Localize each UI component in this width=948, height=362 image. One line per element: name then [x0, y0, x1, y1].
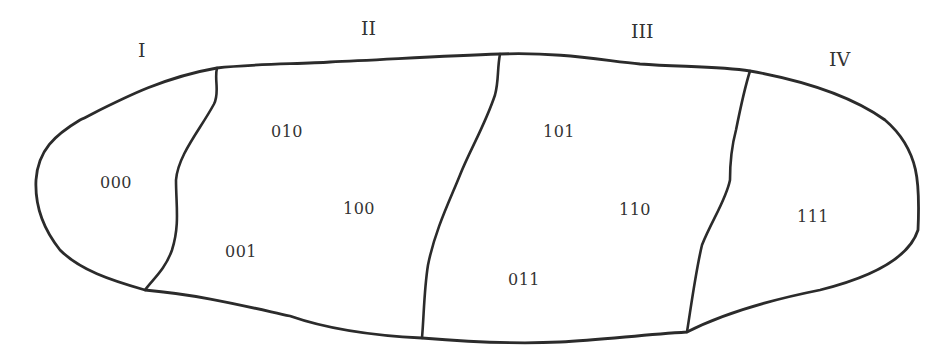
code-111: 111 [797, 207, 829, 226]
code-110: 110 [619, 200, 651, 219]
section-label-iv: IV [829, 48, 851, 70]
divider-3 [687, 71, 750, 332]
code-100: 100 [343, 199, 375, 218]
section-label-iii: III [631, 20, 654, 42]
partition-diagram: I II III IV 000 010 100 001 101 110 011 … [0, 0, 948, 362]
code-101: 101 [543, 122, 575, 141]
code-010: 010 [271, 122, 303, 141]
divider-2 [422, 54, 500, 338]
code-011: 011 [508, 270, 540, 289]
outer-boundary [36, 54, 919, 343]
code-001: 001 [225, 242, 257, 261]
section-label-i: I [138, 39, 146, 61]
divider-1 [145, 68, 217, 290]
code-000: 000 [100, 173, 132, 192]
section-label-ii: II [361, 17, 376, 39]
